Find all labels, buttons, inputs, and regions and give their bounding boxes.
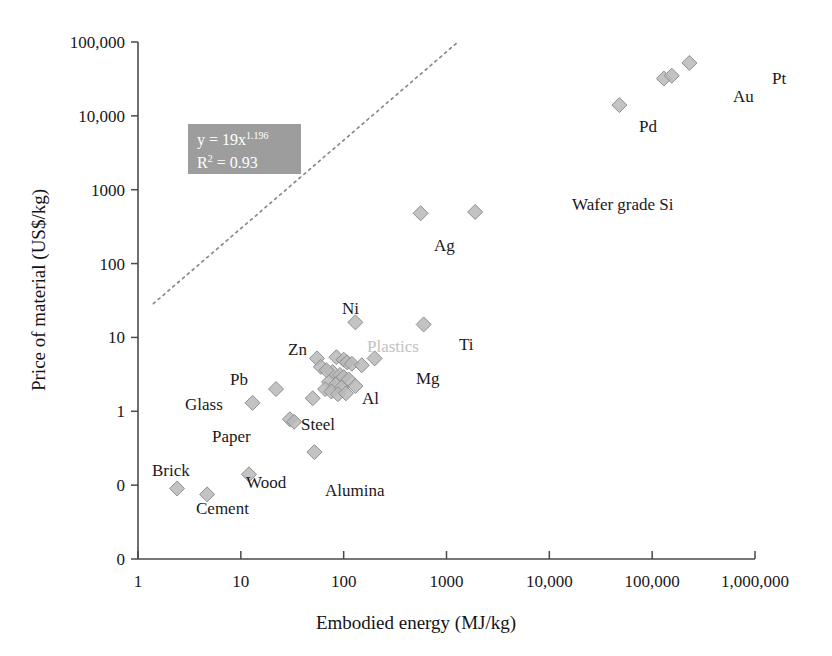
data-point-marker[interactable] bbox=[170, 481, 185, 496]
x-tick-label: 10 bbox=[232, 573, 249, 590]
r-squared-line: R2 = 0.93 bbox=[197, 151, 301, 174]
chart-figure: 100,00010,000100010010100 110100100010,0… bbox=[0, 0, 832, 656]
y-axis-title: Price of material (US$/kg) bbox=[28, 20, 50, 560]
y-tick-label: 0 bbox=[0, 477, 125, 494]
r-squared-superscript: 2 bbox=[208, 153, 213, 164]
regression-equation-line: y = 19x1.196 bbox=[197, 128, 301, 151]
data-point-label: Pd bbox=[639, 118, 657, 135]
data-point-label: Paper bbox=[212, 428, 251, 445]
data-point-label: Ag bbox=[434, 237, 455, 254]
data-point-label: Plastics bbox=[367, 338, 419, 355]
y-tick-label: 100 bbox=[0, 255, 125, 272]
r-squared-symbol: R bbox=[197, 154, 208, 171]
data-point-label: Zn bbox=[288, 341, 307, 358]
data-point-label: Au bbox=[733, 88, 754, 105]
data-point-label: Mg bbox=[416, 370, 440, 387]
r-squared-value: = 0.93 bbox=[217, 154, 258, 171]
data-point-marker[interactable] bbox=[305, 391, 320, 406]
x-tick-label: 10,000 bbox=[526, 573, 573, 590]
data-point-marker[interactable] bbox=[682, 55, 697, 70]
data-point-marker[interactable] bbox=[416, 317, 431, 332]
x-tick-label: 1,000,000 bbox=[721, 573, 789, 590]
data-point-label: Pb bbox=[230, 371, 248, 388]
data-point-marker[interactable] bbox=[468, 204, 483, 219]
data-point-label: Wood bbox=[246, 474, 286, 491]
y-tick-label: 0 bbox=[0, 551, 125, 568]
regression-exponent: 1.196 bbox=[246, 130, 269, 141]
data-point-label: Wafer grade Si bbox=[572, 196, 674, 213]
x-tick-label: 1 bbox=[134, 573, 143, 590]
x-axis-title: Embodied energy (MJ/kg) bbox=[0, 612, 832, 634]
y-tick-label: 100,000 bbox=[0, 34, 125, 51]
data-point-label: Al bbox=[362, 390, 379, 407]
y-tick-label: 10,000 bbox=[0, 107, 125, 124]
regression-equation-text: y = 19x bbox=[197, 131, 246, 148]
y-axis-ticks bbox=[131, 42, 138, 559]
x-tick-label: 100,000 bbox=[625, 573, 680, 590]
data-point-marker[interactable] bbox=[413, 206, 428, 221]
data-point-marker[interactable] bbox=[245, 395, 260, 410]
data-point-label: Ni bbox=[342, 300, 359, 317]
data-point-label: Alumina bbox=[325, 482, 385, 499]
data-point-label: Brick bbox=[152, 462, 190, 479]
data-point-label: Pt bbox=[772, 70, 786, 87]
y-tick-label: 10 bbox=[0, 329, 125, 346]
data-point-marker[interactable] bbox=[269, 382, 284, 397]
data-point-label: Ti bbox=[459, 336, 474, 353]
data-point-marker[interactable] bbox=[307, 445, 322, 460]
x-axis-ticks bbox=[138, 551, 755, 559]
y-tick-label: 1 bbox=[0, 403, 125, 420]
data-point-label: Cement bbox=[196, 500, 249, 517]
y-tick-label: 1000 bbox=[0, 181, 125, 198]
data-point-label: Steel bbox=[301, 416, 335, 433]
x-tick-label: 1000 bbox=[430, 573, 464, 590]
data-point-label: Glass bbox=[185, 396, 223, 413]
data-point-marker[interactable] bbox=[612, 98, 627, 113]
regression-equation-box: y = 19x1.196 R2 = 0.93 bbox=[188, 124, 301, 174]
data-point-marker[interactable] bbox=[354, 358, 369, 373]
x-tick-label: 100 bbox=[331, 573, 357, 590]
